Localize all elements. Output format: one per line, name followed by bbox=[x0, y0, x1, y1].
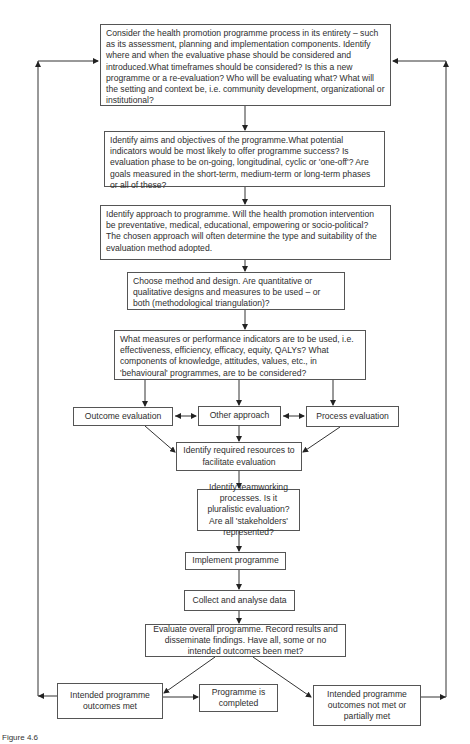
outcomes-met-box: Intended programme outcomes met bbox=[57, 683, 163, 719]
step-identify-approach: Identify approach to programme. Will the… bbox=[100, 205, 391, 260]
step-implement: Implement programme bbox=[185, 552, 286, 570]
step-choose-method: Choose method and design. Are quantitati… bbox=[127, 272, 345, 310]
step-consider-process: Consider the health promotion programme … bbox=[100, 24, 391, 106]
step-identify-aims: Identify aims and objectives of the prog… bbox=[104, 131, 385, 187]
figure-caption: Figure 4.6 bbox=[2, 733, 38, 742]
outcome-evaluation-box: Outcome evaluation bbox=[73, 407, 173, 426]
step-identify-resources: Identify required resources to facilitat… bbox=[176, 442, 302, 471]
step-teamworking: Identify teamworking processes. Is it pl… bbox=[197, 489, 300, 531]
programme-completed-box: Programme is completed bbox=[199, 684, 278, 712]
step-collect-data: Collect and analyse data bbox=[184, 590, 295, 611]
step-measures: What measures or performance indicators … bbox=[114, 330, 366, 380]
outcomes-not-met-box: Intended programme outcomes not met or p… bbox=[313, 685, 421, 726]
process-evaluation-box: Process evaluation bbox=[306, 406, 399, 427]
step-evaluate-overall: Evaluate overall programme. Record resul… bbox=[145, 624, 346, 657]
other-approach-box: Other approach bbox=[198, 406, 281, 426]
